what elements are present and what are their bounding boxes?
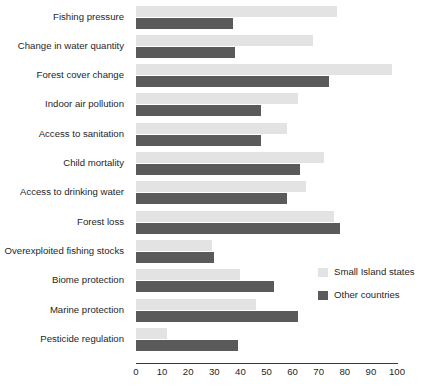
x-tick: 40 [235, 366, 246, 378]
x-tick: 100 [389, 366, 405, 378]
legend-swatch-icon [318, 268, 328, 277]
bar-other-countries [136, 135, 261, 146]
category-label: Marine protection [0, 304, 124, 315]
bar-small-island-states [136, 299, 256, 310]
x-tick: 30 [209, 366, 220, 378]
legend-item-other-countries: Other countries [318, 289, 433, 312]
bar-other-countries [136, 252, 214, 263]
bar-small-island-states [136, 123, 287, 134]
bar-small-island-states [136, 6, 337, 17]
bar-small-island-states [136, 64, 392, 75]
category-label: Indoor air pollution [0, 98, 124, 109]
bar-small-island-states [136, 181, 306, 192]
bar-small-island-states [136, 211, 334, 222]
category-axis-labels: Fishing pressure Change in water quantit… [0, 0, 130, 357]
bar-other-countries [136, 223, 340, 234]
legend-label: Other countries [334, 289, 400, 301]
category-label: Access to drinking water [0, 186, 124, 197]
category-label: Child mortality [0, 157, 124, 168]
bar-other-countries [136, 47, 235, 58]
bar-other-countries [136, 18, 233, 29]
x-tick: 70 [313, 366, 324, 378]
x-tick: 60 [287, 366, 298, 378]
bar-other-countries [136, 76, 329, 87]
legend-item-small-island-states: Small Island states [318, 266, 433, 289]
bar-small-island-states [136, 328, 167, 339]
x-tick: 90 [366, 366, 377, 378]
bar-other-countries [136, 281, 274, 292]
bar-small-island-states [136, 35, 313, 46]
legend-swatch-icon [318, 291, 328, 300]
category-label: Forest cover change [0, 69, 124, 80]
chart-legend: Small Island states Other countries [318, 266, 433, 312]
category-label: Change in water quantity [0, 40, 124, 51]
legend-label: Small Island states [334, 266, 415, 278]
x-tick: 20 [183, 366, 194, 378]
category-label: Fishing pressure [0, 11, 124, 22]
bar-small-island-states [136, 240, 212, 251]
bar-other-countries [136, 105, 261, 116]
category-label: Access to sanitation [0, 128, 124, 139]
x-axis-line [136, 363, 398, 364]
category-label: Forest loss [0, 216, 124, 227]
x-tick: 50 [261, 366, 272, 378]
category-label: Overexploited fishing stocks [0, 245, 124, 256]
x-axis-tick-labels: 0 10 20 30 40 50 60 70 80 90 100 [0, 366, 433, 382]
bar-small-island-states [136, 93, 298, 104]
bar-chart: Fishing pressure Change in water quantit… [0, 0, 433, 389]
category-label: Biome protection [0, 274, 124, 285]
bar-other-countries [136, 340, 238, 351]
bar-other-countries [136, 164, 300, 175]
bar-small-island-states [136, 269, 240, 280]
bar-other-countries [136, 193, 287, 204]
bar-small-island-states [136, 152, 324, 163]
category-label: Pesticide regulation [0, 333, 124, 344]
x-tick: 80 [339, 366, 350, 378]
x-tick: 0 [133, 366, 138, 378]
bar-other-countries [136, 311, 298, 322]
x-tick: 10 [157, 366, 168, 378]
